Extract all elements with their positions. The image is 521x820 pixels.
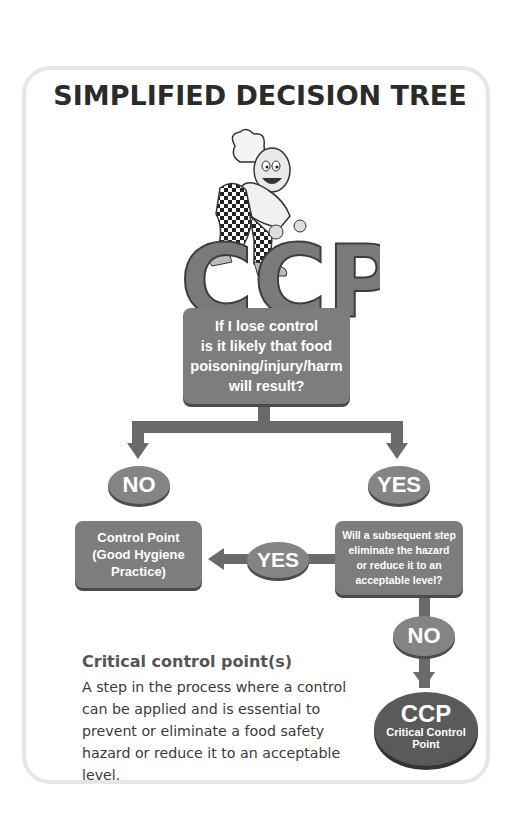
chef-mascot-icon: CCP	[180, 128, 380, 318]
question-box: If I lose control is it likely that food…	[183, 308, 350, 404]
ccp-line: Point	[374, 738, 478, 750]
subsequent-step-line: acceptable level?	[356, 573, 443, 588]
control-point-box: Control Point (Good Hygiene Practice)	[75, 521, 202, 588]
arrow-left-icon	[208, 548, 224, 570]
ccp-abbrev: CCP	[374, 702, 478, 726]
connector-left-drop	[132, 421, 144, 445]
ccp-line: Critical Control	[374, 726, 478, 738]
arrow-down-icon	[413, 672, 435, 688]
connector-horizontal	[132, 421, 402, 433]
arrow-down-icon	[127, 443, 149, 459]
yes-branch-label: YES	[368, 466, 430, 504]
question-line: will result?	[229, 376, 305, 396]
definition-heading: Critical control point(s)	[82, 652, 292, 671]
no-branch-label: NO	[108, 466, 170, 504]
question-line: If I lose control	[215, 316, 318, 336]
control-point-line: Control Point	[97, 529, 179, 546]
question-line: poisoning/injury/harm	[190, 356, 342, 376]
control-point-line: (Good Hygiene	[92, 546, 184, 563]
definition-body: A step in the process where a control ca…	[82, 676, 362, 786]
yes-connector-label: YES	[247, 542, 309, 578]
page-title: SIMPLIFIED DECISION TREE	[22, 80, 498, 111]
subsequent-step-box: Will a subsequent step eliminate the haz…	[335, 521, 463, 595]
arrow-down-icon	[386, 443, 408, 459]
subsequent-step-line: Will a subsequent step	[342, 528, 456, 543]
subsequent-step-line: or reduce it to an	[356, 558, 441, 573]
no-connector-label: NO	[393, 616, 455, 656]
ccp-result: CCP Critical Control Point	[374, 692, 478, 766]
control-point-line: Practice)	[111, 563, 166, 580]
question-line: is it likely that food	[201, 336, 332, 356]
svg-text:CCP: CCP	[180, 223, 380, 318]
subsequent-step-line: eliminate the hazard	[349, 543, 450, 558]
connector-right-drop	[391, 421, 403, 445]
